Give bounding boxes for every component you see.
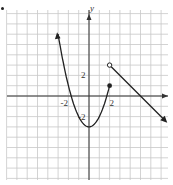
grid <box>7 10 168 180</box>
svg-text:2: 2 <box>110 98 115 108</box>
svg-text:-2: -2 <box>60 98 68 108</box>
graph: y-222-2 <box>0 0 173 185</box>
svg-text:2: 2 <box>81 70 86 80</box>
svg-text:y: y <box>89 3 94 13</box>
axes <box>7 10 168 180</box>
curves <box>55 32 167 127</box>
